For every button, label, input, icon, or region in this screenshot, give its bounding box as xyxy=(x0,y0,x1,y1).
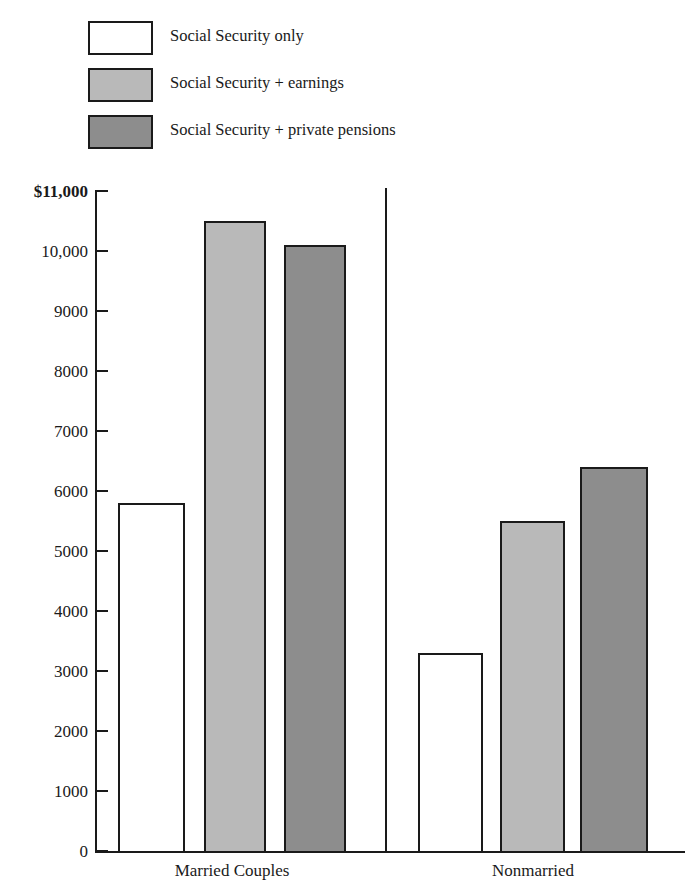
group-divider-line xyxy=(385,188,387,853)
y-axis-tick xyxy=(95,790,108,792)
y-axis-tick xyxy=(95,670,108,672)
plot-area: $11,00010,000900080007000600050004000300… xyxy=(0,0,695,895)
y-axis-tick xyxy=(95,610,108,612)
y-axis-tick xyxy=(95,550,108,552)
bar xyxy=(284,245,346,853)
bar xyxy=(500,521,565,853)
y-axis-line xyxy=(95,191,97,853)
y-axis-tick xyxy=(95,250,108,252)
y-axis-tick xyxy=(95,370,108,372)
bar xyxy=(418,653,483,853)
y-axis-tick xyxy=(95,190,108,192)
y-axis-tick xyxy=(95,850,108,852)
y-axis-tick xyxy=(95,430,108,432)
x-axis-category-label: Nonmarried xyxy=(423,861,643,881)
bar xyxy=(204,221,266,853)
y-axis-tick xyxy=(95,730,108,732)
y-axis-tick xyxy=(95,310,108,312)
bar-chart-figure: Social Security only Social Security + e… xyxy=(0,0,695,895)
bar xyxy=(118,503,185,853)
bar xyxy=(580,467,648,853)
y-axis-tick xyxy=(95,490,108,492)
x-axis-category-label: Married Couples xyxy=(122,861,342,881)
